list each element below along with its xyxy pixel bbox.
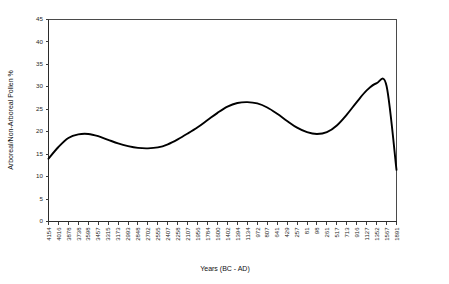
x-axis-tick-label: 1134 bbox=[245, 227, 251, 241]
x-axis-tick-label: 3738 bbox=[76, 227, 82, 241]
plot-frame bbox=[49, 20, 397, 222]
x-axis-tick-label: 3173 bbox=[115, 227, 121, 241]
y-axis-tick-label: 20 bbox=[36, 127, 43, 134]
x-axis-tick-label: 916 bbox=[354, 227, 360, 238]
y-axis-tick-label: 40 bbox=[36, 38, 43, 45]
y-axis-tick-labels: 051015202530354045 bbox=[36, 15, 43, 224]
pollen-line-chart-figure: 051015202530354045 415440163878373835983… bbox=[0, 0, 449, 284]
x-axis-tick-label: 1567 bbox=[384, 227, 390, 241]
x-axis-tick-label: 517 bbox=[334, 227, 340, 238]
x-axis-tick-label: 1600 bbox=[215, 227, 221, 241]
x-axis-tick-label: 3315 bbox=[105, 227, 111, 241]
x-axis-tick-label: 98 bbox=[314, 227, 320, 234]
y-axis-tick-label: 15 bbox=[36, 150, 43, 157]
x-axis-tick-label: 1402 bbox=[225, 227, 231, 241]
x-axis-tick-label: 2555 bbox=[155, 227, 161, 241]
x-axis-tick-label: 1956 bbox=[195, 227, 201, 241]
x-axis-tick-label: 2258 bbox=[175, 227, 181, 241]
x-axis-tick-label: 4154 bbox=[46, 227, 52, 241]
y-axis-tick-label: 0 bbox=[40, 217, 44, 224]
x-axis-tick-label: 1891 bbox=[394, 227, 400, 241]
y-axis-tick-label: 45 bbox=[36, 15, 43, 22]
pollen-curve bbox=[49, 79, 397, 170]
x-axis-tick-label: 1394 bbox=[235, 227, 241, 241]
x-axis-tick-label: 2848 bbox=[135, 227, 141, 241]
x-axis-tick-labels: 4154401638783738359834573315317329932848… bbox=[46, 227, 400, 241]
y-axis-title: Arboreal/Non-Arboreal Pollen % bbox=[7, 70, 14, 170]
y-axis-tick-label: 5 bbox=[40, 195, 44, 202]
x-axis-title: Years (BC - AD) bbox=[200, 265, 250, 273]
x-axis-tick-label: 3598 bbox=[85, 227, 91, 241]
x-axis-tick-label: 2107 bbox=[185, 227, 191, 241]
x-axis-tick-label: 2993 bbox=[125, 227, 131, 241]
x-axis-tick-label: 972 bbox=[255, 227, 261, 238]
x-axis-tick-label: 2702 bbox=[145, 227, 151, 241]
x-axis-tick-label: 257 bbox=[294, 227, 300, 238]
chart-canvas: 051015202530354045 415440163878373835983… bbox=[0, 0, 449, 284]
y-axis-tick-label: 25 bbox=[36, 105, 43, 112]
x-axis-tick-label: 1352 bbox=[374, 227, 380, 241]
x-axis-tick-label: 713 bbox=[344, 227, 350, 238]
x-axis-tick-label: 1784 bbox=[205, 227, 211, 241]
x-axis-tick-label: 3878 bbox=[66, 227, 72, 241]
x-axis-tick-label: 3457 bbox=[95, 227, 101, 241]
x-axis-tick-label: 4016 bbox=[56, 227, 62, 241]
x-axis-tick-label: 261 bbox=[324, 227, 330, 238]
x-axis-tick-label: 807 bbox=[264, 227, 270, 238]
y-axis-tick-label: 10 bbox=[36, 172, 43, 179]
y-axis-tick-label: 35 bbox=[36, 60, 43, 67]
x-axis-tick-label: 81 bbox=[304, 227, 310, 234]
x-axis-tick-label: 641 bbox=[274, 227, 280, 238]
x-axis-tick-label: 1127 bbox=[364, 227, 370, 241]
x-axis-tick-label: 2407 bbox=[165, 227, 171, 241]
x-axis-tick-label: 429 bbox=[284, 227, 290, 238]
y-axis-tick-label: 30 bbox=[36, 82, 43, 89]
